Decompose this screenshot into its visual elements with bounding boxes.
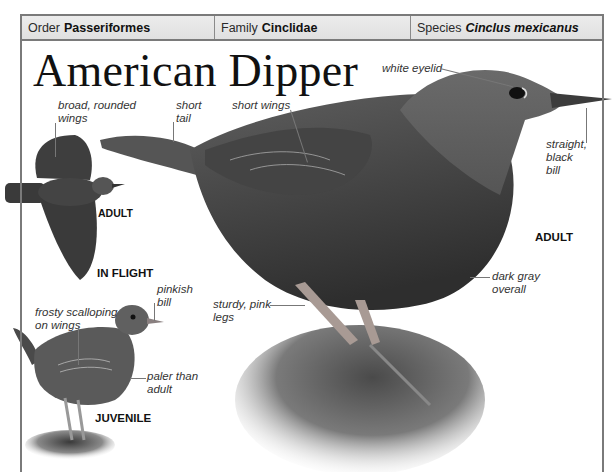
annotation-pinkish-bill: pinkish bill xyxy=(157,283,193,309)
family-value: Cinclidae xyxy=(262,21,318,35)
caption-adult: ADULT xyxy=(535,231,573,243)
leader-line xyxy=(586,108,587,143)
order-value: Passeriformes xyxy=(64,21,150,35)
taxonomy-family: Family Cinclidae xyxy=(215,16,411,39)
leader-line xyxy=(470,277,490,278)
annotation-pink-legs: sturdy, pink legs xyxy=(213,298,271,324)
leader-line xyxy=(130,378,146,379)
caption-juvenile: JUVENILE xyxy=(95,412,151,424)
annotation-dark-gray: dark gray overall xyxy=(492,270,540,296)
annotation-short-tail: short tail xyxy=(176,99,202,125)
annotation-paler-than-adult: paler than adult xyxy=(147,370,198,396)
leader-line xyxy=(154,303,155,321)
taxonomy-order: Order Passeriformes xyxy=(22,16,215,39)
leader-line xyxy=(78,327,79,365)
annotation-white-eyelid: white eyelid xyxy=(382,62,442,75)
leader-line xyxy=(270,305,305,306)
species-label: Species xyxy=(417,21,461,35)
taxonomy-species: Species Cinclus mexicanus xyxy=(411,16,602,39)
species-value: Cinclus mexicanus xyxy=(465,21,578,35)
order-label: Order xyxy=(28,21,60,35)
annotation-short-wings: short wings xyxy=(232,99,290,112)
annotation-black-bill: straight, black bill xyxy=(546,138,587,177)
page-title: American Dipper xyxy=(33,44,358,97)
taxonomy-bar: Order Passeriformes Family Cinclidae Spe… xyxy=(20,14,604,41)
leader-line xyxy=(55,123,56,157)
caption-flight-adult: ADULT xyxy=(98,207,133,219)
caption-in-flight: IN FLIGHT xyxy=(97,267,153,279)
annotation-frosty-scalloping: frosty scalloping on wings xyxy=(35,306,117,332)
leader-line xyxy=(173,122,174,142)
family-label: Family xyxy=(221,21,258,35)
annotation-flight-wings: broad, rounded wings xyxy=(58,99,136,125)
